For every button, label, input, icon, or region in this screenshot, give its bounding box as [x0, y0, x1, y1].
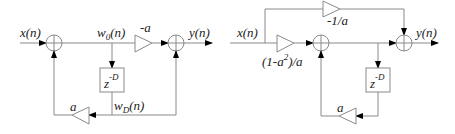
gain-input-label: (1-a2)/a: [262, 52, 303, 69]
gain-feedback-label: a: [337, 100, 344, 115]
left-diagram: x(n) w0(n) -a y(n) z-D wD(n): [19, 20, 212, 124]
w0-label: w0(n): [97, 25, 125, 42]
output-label: y(n): [414, 25, 437, 40]
gain-forward-label: -a: [140, 20, 151, 35]
summing-junction-icon: [46, 35, 62, 51]
wd-label: wD(n): [114, 98, 144, 115]
summing-junction-icon: [396, 35, 412, 51]
summing-junction-icon: [313, 35, 329, 51]
gain-triangle-icon: [135, 35, 152, 52]
right-diagram: x(n) -1/a (1-a2)/a y(n) z-D: [230, 1, 438, 124]
summing-junction-icon: [168, 35, 184, 51]
output-label: y(n): [187, 25, 210, 40]
gain-feedback-label: a: [70, 99, 77, 114]
block-diagrams: x(n) w0(n) -a y(n) z-D wD(n): [0, 0, 455, 134]
gain-triangle-icon: [277, 35, 294, 52]
input-label: x(n): [236, 25, 258, 40]
input-label: x(n): [19, 25, 41, 40]
gain-top-label: -1/a: [327, 13, 348, 28]
